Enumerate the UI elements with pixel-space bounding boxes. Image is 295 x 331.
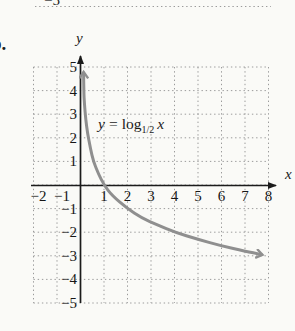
y-tick-label: 3: [45, 105, 77, 123]
y-tick-label: −5: [45, 294, 77, 312]
y-tick-label: 2: [45, 129, 77, 147]
figure-page: −5 b. y x y=log1/2x −2−112345678 54321−1…: [0, 0, 295, 331]
y-tick-label: −3: [45, 247, 77, 265]
x-tick-label: 8: [255, 187, 283, 205]
y-tick-label: 5: [45, 58, 77, 76]
equation-operator: log: [122, 115, 142, 132]
y-axis-label: y: [76, 30, 83, 47]
equation-lhs: y: [98, 115, 105, 132]
previous-graph-tick-label: −5: [44, 0, 60, 9]
y-tick-label: 1: [45, 152, 77, 170]
equation-label: y=log1/2x: [98, 115, 164, 135]
equation-argument: x: [157, 115, 164, 132]
equation-base: 1/2: [141, 124, 154, 135]
y-tick-label: −1: [45, 200, 77, 218]
equation-equals: =: [105, 115, 122, 132]
y-tick-label: −2: [45, 223, 77, 241]
log-curve: [84, 73, 262, 255]
problem-label: b.: [0, 33, 6, 55]
y-tick-label: 4: [45, 82, 77, 100]
x-axis-label: x: [285, 166, 292, 183]
y-tick-label: −4: [45, 270, 77, 288]
